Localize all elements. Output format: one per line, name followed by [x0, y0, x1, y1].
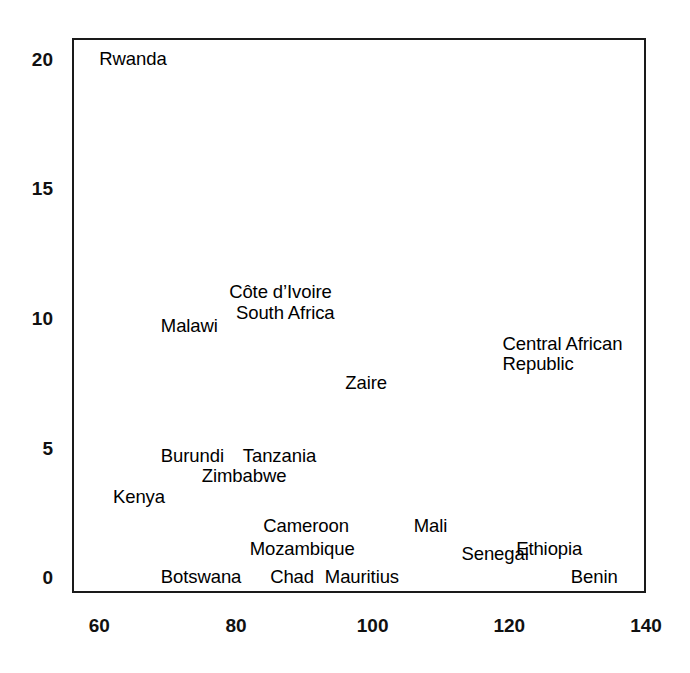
point-label-benin: Benin	[571, 568, 618, 588]
point-label-botswana: Botswana	[161, 568, 241, 588]
point-label-kenya: Kenya	[113, 487, 165, 507]
y-axis-tick-20: 20	[0, 49, 53, 68]
plot-frame	[72, 38, 646, 593]
point-label-central-african-republic: Central AfricanRepublic	[503, 335, 623, 374]
point-label-tanzania: Tanzania	[243, 446, 316, 466]
point-label-chad: Chad	[270, 568, 314, 588]
point-label-rwanda: Rwanda	[99, 49, 166, 69]
point-label-south-africa: South Africa	[236, 303, 335, 323]
point-label-zimbabwe: Zimbabwe	[202, 466, 287, 486]
y-axis-tick-5: 5	[0, 438, 53, 457]
x-axis-tick-100: 100	[357, 616, 389, 635]
point-label-mauritius: Mauritius	[325, 568, 399, 588]
y-axis-tick-15: 15	[0, 179, 53, 198]
x-axis-tick-120: 120	[493, 616, 525, 635]
y-axis-tick-10: 10	[0, 309, 53, 328]
x-axis-tick-140: 140	[630, 616, 662, 635]
x-axis-tick-80: 80	[225, 616, 246, 635]
point-label-mozambique: Mozambique	[250, 539, 355, 559]
point-label-c-te-divoire: Côte d’Ivoire	[229, 282, 332, 302]
point-label-ethiopia: Ethiopia	[516, 539, 582, 559]
scatter-chart: 05101520 6080100120140 RwandaCôte d’Ivoi…	[0, 0, 690, 673]
point-label-mali: Mali	[414, 516, 448, 536]
x-axis-tick-60: 60	[89, 616, 110, 635]
point-label-zaire: Zaire	[345, 373, 387, 393]
point-label-malawi: Malawi	[161, 316, 218, 336]
point-label-burundi: Burundi	[161, 446, 224, 466]
point-label-cameroon: Cameroon	[263, 516, 349, 536]
y-axis-tick-0: 0	[0, 568, 53, 587]
